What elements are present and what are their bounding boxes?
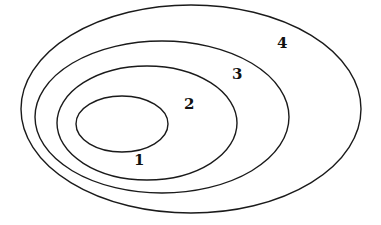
label-2: 2 bbox=[184, 95, 194, 113]
label-1: 1 bbox=[134, 151, 144, 169]
nested-ellipse-diagram: 1 2 3 4 bbox=[0, 0, 381, 225]
label-4: 4 bbox=[277, 34, 287, 52]
label-3: 3 bbox=[232, 65, 242, 83]
